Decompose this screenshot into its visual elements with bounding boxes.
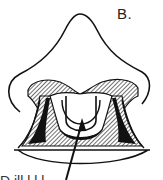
- panel-label: B.: [117, 5, 132, 22]
- lower-band: [14, 150, 150, 164]
- caption-text: D ill l l l: [0, 174, 163, 180]
- cropped-caption: D ill l l l: [0, 174, 163, 180]
- diagram-drawing: [0, 0, 163, 180]
- anatomical-diagram: B. D ill l l l: [0, 0, 163, 180]
